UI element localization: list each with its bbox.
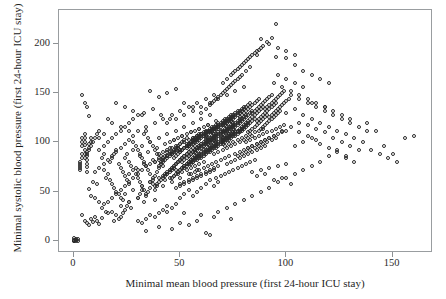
data-point	[240, 152, 244, 156]
data-point	[78, 168, 82, 172]
data-point	[293, 63, 297, 67]
data-point	[165, 204, 169, 208]
data-point	[134, 166, 138, 170]
data-point	[97, 222, 101, 226]
data-point	[161, 117, 165, 121]
data-point	[301, 113, 305, 117]
data-point	[197, 127, 201, 131]
data-point	[267, 42, 271, 46]
data-point	[138, 154, 142, 158]
data-point	[119, 129, 123, 133]
data-point	[165, 132, 169, 136]
data-point	[314, 101, 318, 105]
data-point	[272, 178, 276, 182]
data-point	[102, 162, 106, 166]
data-point	[219, 174, 223, 178]
data-point	[257, 48, 261, 52]
data-point	[123, 142, 127, 146]
data-point	[163, 142, 167, 146]
data-point	[216, 125, 220, 129]
data-point	[182, 211, 186, 215]
data-point	[199, 105, 203, 109]
data-point	[187, 188, 191, 192]
data-point	[106, 140, 110, 144]
data-point	[182, 125, 186, 129]
data-point	[236, 154, 240, 158]
data-point	[219, 158, 223, 162]
data-point	[323, 130, 327, 134]
data-point	[348, 117, 352, 121]
data-point	[148, 186, 152, 190]
data-point	[144, 229, 148, 233]
data-point	[140, 113, 144, 117]
data-point	[140, 144, 144, 148]
data-point	[212, 168, 216, 172]
data-point	[87, 187, 91, 191]
data-point	[318, 121, 322, 125]
data-point	[199, 111, 203, 115]
data-point	[276, 164, 280, 168]
data-point	[112, 219, 116, 223]
data-point	[327, 154, 331, 158]
data-point	[204, 231, 208, 235]
data-point	[165, 91, 169, 95]
data-point	[369, 148, 373, 152]
data-point	[127, 180, 131, 184]
data-point	[110, 136, 114, 140]
data-point	[165, 121, 169, 125]
data-point	[127, 129, 131, 133]
data-point	[102, 144, 106, 148]
data-point	[185, 168, 189, 172]
plot-area	[58, 9, 432, 252]
data-point	[227, 85, 231, 89]
data-point	[131, 109, 135, 113]
x-axis-tick-label: 100	[278, 257, 294, 269]
data-point	[119, 146, 123, 150]
data-point	[178, 176, 182, 180]
data-point	[195, 190, 199, 194]
data-point	[204, 172, 208, 176]
data-point	[85, 170, 89, 174]
data-point	[80, 213, 84, 217]
data-point	[284, 49, 288, 53]
data-point	[395, 160, 399, 164]
data-point	[117, 217, 121, 221]
data-point	[178, 109, 182, 113]
data-point	[83, 156, 87, 160]
data-point	[306, 123, 310, 127]
data-point	[87, 114, 91, 118]
data-point	[199, 213, 203, 217]
data-point	[223, 156, 227, 160]
data-point	[318, 160, 322, 164]
data-point	[289, 182, 293, 186]
data-point	[157, 176, 161, 180]
data-point	[197, 162, 201, 166]
data-point	[348, 144, 352, 148]
data-point	[242, 85, 246, 89]
data-point	[282, 89, 286, 93]
data-point	[391, 152, 395, 156]
data-point	[202, 160, 206, 164]
data-point	[182, 101, 186, 105]
data-point	[114, 150, 118, 154]
data-point	[97, 136, 101, 140]
data-point	[236, 129, 240, 133]
data-point	[148, 162, 152, 166]
data-point	[110, 121, 114, 125]
data-point	[297, 93, 301, 97]
data-point	[136, 196, 140, 200]
data-point	[202, 144, 206, 148]
data-point	[352, 136, 356, 140]
data-point	[255, 174, 259, 178]
data-point	[144, 129, 148, 133]
data-point	[310, 164, 314, 168]
data-point	[248, 65, 252, 69]
data-point	[378, 152, 382, 156]
data-point	[255, 142, 259, 146]
data-point	[187, 180, 191, 184]
data-point	[240, 127, 244, 131]
data-point	[144, 125, 148, 129]
data-point	[106, 200, 110, 204]
data-point	[83, 143, 87, 147]
data-point	[301, 140, 305, 144]
